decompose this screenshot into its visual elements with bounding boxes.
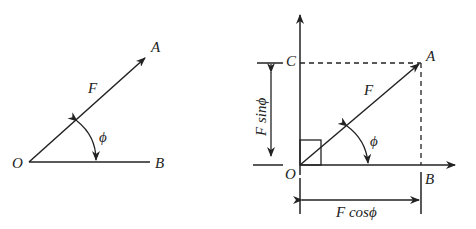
label-b: B — [155, 155, 164, 171]
force-resolution-figure: O A B F ϕ F sinϕ F cosϕ O C A B F ϕ — [0, 0, 476, 229]
label-f: F — [363, 82, 374, 98]
label-phi: ϕ — [99, 129, 107, 145]
label-a: A — [425, 48, 436, 64]
right-force-diagram: F sinϕ F cosϕ O C A B F ϕ — [253, 15, 455, 220]
label-o: O — [285, 166, 296, 182]
right-angle-marker — [300, 140, 321, 165]
force-vector-oa — [300, 64, 419, 165]
label-o: O — [12, 155, 23, 171]
label-c: C — [286, 53, 297, 69]
label-phi: ϕ — [370, 133, 378, 149]
angle-arc-phi — [347, 126, 368, 163]
label-f-cos-phi: F cosϕ — [335, 204, 377, 220]
label-f: F — [87, 80, 98, 96]
label-b: B — [425, 171, 434, 187]
angle-arc-phi — [77, 121, 96, 160]
force-vector-oa — [29, 58, 145, 162]
label-a: A — [150, 39, 161, 55]
label-f-sin-phi: F sinϕ — [253, 98, 269, 137]
left-force-diagram: O A B F ϕ — [12, 39, 164, 171]
